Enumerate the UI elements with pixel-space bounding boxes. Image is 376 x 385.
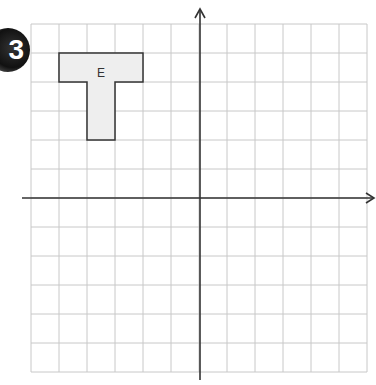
shape-label: E [97,66,105,80]
y-axis [195,9,205,380]
question-number: 3 [8,28,24,72]
x-axis [22,193,374,203]
coordinate-grid [0,0,376,385]
